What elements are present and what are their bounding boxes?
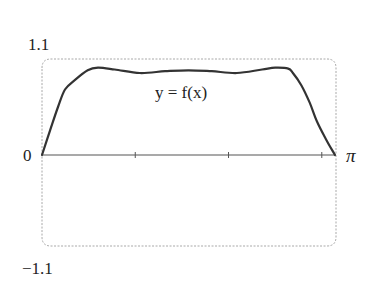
plot-area xyxy=(0,0,376,283)
curve-label-prefix: y = xyxy=(155,83,182,102)
y-max-label: 1.1 xyxy=(28,36,49,53)
x-end-label: π xyxy=(346,146,356,165)
y-min-label: −1.1 xyxy=(22,260,53,277)
curve-label-arg: (x) xyxy=(187,83,207,102)
curve-label: y = f(x) xyxy=(155,84,207,101)
x-origin-label: 0 xyxy=(23,147,32,164)
function-curve xyxy=(42,68,335,155)
